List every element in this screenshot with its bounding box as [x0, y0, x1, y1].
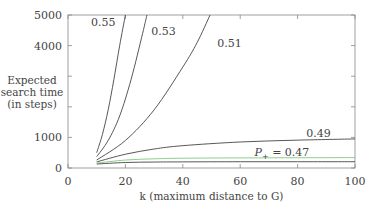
- y-tick-label: 4000: [34, 40, 62, 53]
- curve-0.49: [97, 139, 355, 162]
- x-axis-label: k (maximum distance to G): [140, 190, 284, 202]
- chart: 0204060801000100040005000k (maximum dist…: [0, 0, 380, 212]
- curve-0.45: [97, 162, 355, 164]
- y-tick-label: 1000: [34, 131, 62, 144]
- y-axis-label: (in steps): [7, 98, 57, 110]
- curve-label: 0.49: [306, 127, 331, 140]
- y-tick-label: 5000: [34, 9, 62, 22]
- curve-label: 0.51: [217, 37, 242, 50]
- x-tick-label: 60: [233, 175, 247, 188]
- y-tick-label: 0: [55, 162, 62, 175]
- y-axis-label: Expected: [7, 74, 57, 86]
- x-tick-label: 100: [345, 175, 366, 188]
- x-tick-label: 40: [176, 175, 190, 188]
- plot-axes: 0204060801000100040005000k (maximum dist…: [1, 9, 366, 202]
- curve-label: 0.53: [151, 25, 176, 38]
- curve-0.55: [97, 15, 126, 153]
- plot-frame: [68, 15, 355, 168]
- x-tick-label: 80: [291, 175, 305, 188]
- x-tick-label: 0: [65, 175, 72, 188]
- y-axis-label: search time: [1, 86, 64, 98]
- x-tick-label: 20: [118, 175, 132, 188]
- curve-label: P+ = 0.47: [254, 146, 310, 161]
- curve-label: 0.55: [91, 16, 116, 29]
